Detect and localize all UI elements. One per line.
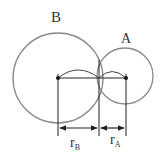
circle-a [97, 48, 153, 104]
label-ra-sub: A [115, 140, 121, 149]
label-rb: rB [70, 135, 80, 152]
label-circle-b: B [51, 9, 61, 25]
label-circle-a: A [121, 31, 132, 46]
label-ra: rA [110, 132, 121, 149]
label-rb-sub: B [75, 143, 80, 152]
arc-b [58, 70, 99, 78]
tangent-circles-diagram: B A rB rA [0, 0, 165, 157]
